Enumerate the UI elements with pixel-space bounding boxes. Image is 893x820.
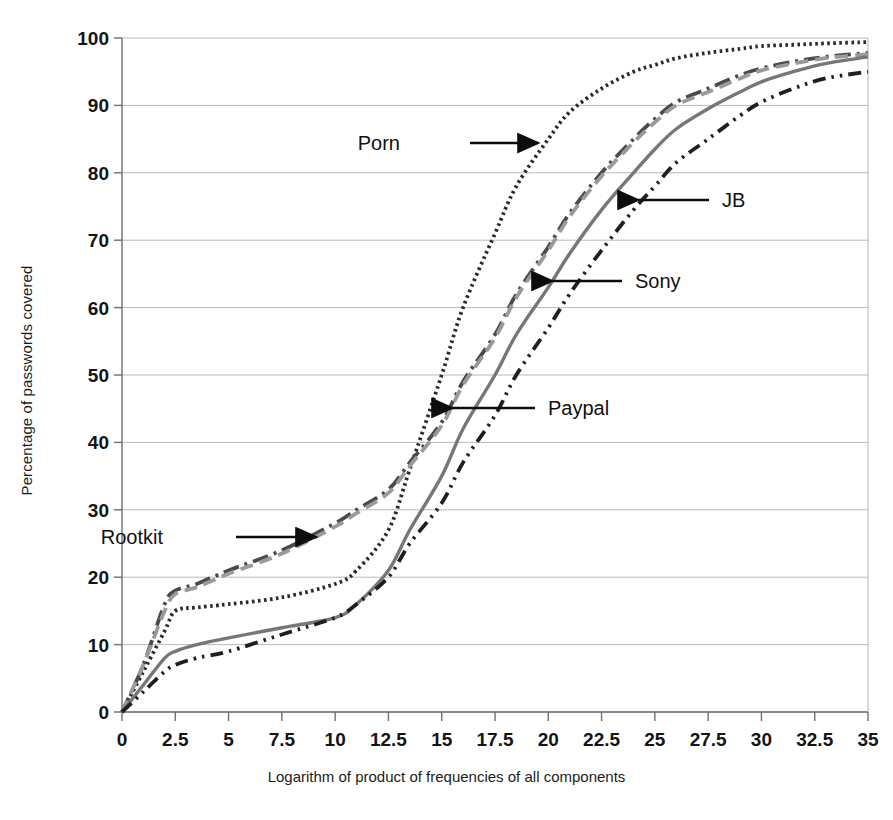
y-tick-label: 60 (88, 298, 109, 319)
series-line-paypal (122, 54, 868, 712)
y-tick-label: 100 (77, 28, 109, 49)
x-tick-label: 30 (751, 729, 772, 750)
x-tick-label: 35 (857, 729, 879, 750)
x-tick-label: 15 (431, 729, 453, 750)
y-axis-label: Percentage of passwords covered (19, 265, 36, 495)
y-tick-label: 30 (88, 500, 109, 521)
x-tick-label: 25 (644, 729, 666, 750)
series-annotation-label-jb: JB (722, 189, 745, 211)
series-annotation-label-paypal: Paypal (548, 397, 609, 419)
series-annotation-label-sony: Sony (635, 270, 681, 292)
x-tick-label: 20 (538, 729, 559, 750)
x-tick-label: 7.5 (269, 729, 296, 750)
x-tick-label: 0 (117, 729, 128, 750)
x-tick-label: 22.5 (583, 729, 620, 750)
y-tick-label: 90 (88, 95, 109, 116)
x-tick-label: 27.5 (690, 729, 727, 750)
x-tick-label: 12.5 (370, 729, 407, 750)
y-tick-label: 80 (88, 163, 109, 184)
y-tick-label: 0 (98, 702, 109, 723)
annotation-layer: PornRootkitPaypalSonyJB (101, 132, 746, 548)
chart-container: Percentage of passwords covered Logarith… (0, 0, 893, 820)
x-tick-label: 17.5 (477, 729, 514, 750)
y-tick-label: 40 (88, 432, 109, 453)
line-chart-svg: 010203040506070809010002.557.51012.51517… (0, 0, 893, 820)
series-line-rootkit (122, 53, 868, 712)
y-axis-label-wrapper: Percentage of passwords covered (10, 0, 44, 760)
y-tick-label: 70 (88, 230, 109, 251)
x-tick-label: 10 (325, 729, 346, 750)
x-tick-label: 2.5 (162, 729, 189, 750)
x-tick-label: 5 (223, 729, 234, 750)
series-annotation-label-porn: Porn (358, 132, 400, 154)
series-line-sony (122, 57, 868, 712)
y-tick-label: 10 (88, 635, 109, 656)
series-line-jb (122, 72, 868, 712)
y-tick-label: 20 (88, 567, 109, 588)
y-tick-label: 50 (88, 365, 109, 386)
tick-label-layer: 010203040506070809010002.557.51012.51517… (77, 28, 879, 750)
x-tick-label: 32.5 (796, 729, 833, 750)
x-axis-label: Logarithm of product of frequencies of a… (0, 768, 893, 785)
series-annotation-label-rootkit: Rootkit (101, 526, 164, 548)
